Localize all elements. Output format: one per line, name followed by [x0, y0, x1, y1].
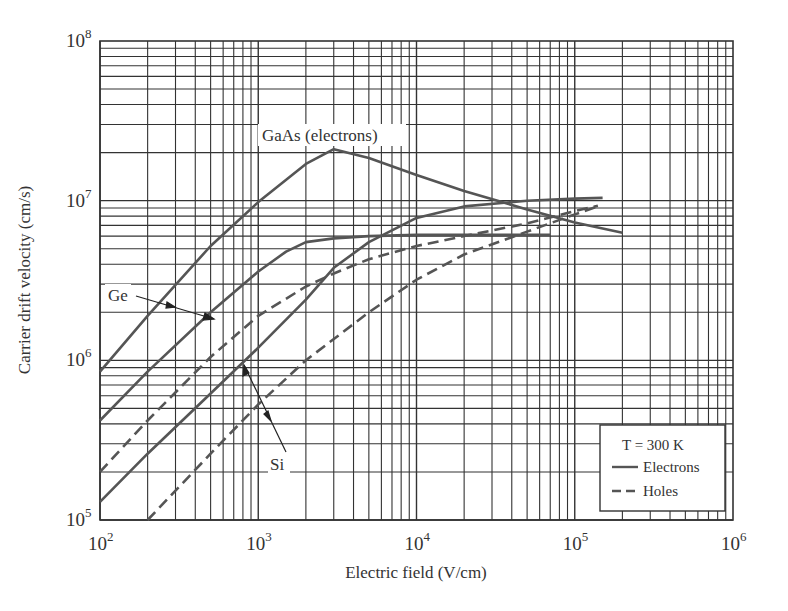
si-arrowhead-2 — [264, 411, 271, 421]
curve-ge-holes — [100, 206, 598, 472]
gaas-annotation: GaAs (electrons) — [262, 126, 378, 145]
x-tick-label: 103 — [246, 529, 272, 554]
curve-si-holes — [148, 206, 598, 520]
y-tick-label: 106 — [66, 345, 92, 370]
data-curves — [100, 149, 622, 520]
y-axis-label: Carrier drift velocity (cm/s) — [15, 186, 34, 374]
x-tick-label: 102 — [88, 529, 114, 554]
x-tick-label: 105 — [563, 529, 589, 554]
curve-gaas-electrons — [100, 149, 622, 371]
y-tick-label: 105 — [66, 505, 92, 530]
x-axis-label: Electric field (V/cm) — [345, 563, 487, 582]
y-tick-label: 107 — [66, 186, 92, 211]
ge-arrowhead-1 — [166, 302, 175, 308]
legend: T = 300 K Electrons Holes — [600, 425, 725, 511]
legend-holes-label: Holes — [643, 483, 678, 499]
y-tick-label: 108 — [66, 26, 92, 51]
curve-ge-electrons — [100, 235, 550, 421]
legend-electrons-label: Electrons — [643, 459, 700, 475]
x-tick-label: 106 — [721, 529, 747, 554]
x-tick-label: 104 — [405, 529, 431, 554]
drift-velocity-chart: 102103104105106105106107108 GaAs (electr… — [0, 0, 788, 611]
legend-title: T = 300 K — [622, 437, 684, 453]
si-annotation: Si — [270, 455, 284, 474]
ge-annotation: Ge — [108, 286, 128, 305]
